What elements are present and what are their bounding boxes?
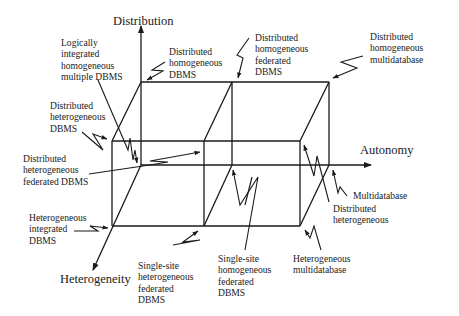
distribution-axis-label: Distribution xyxy=(113,14,173,28)
label-distributed-heterogeneous-dbms: Distributed heterogeneous DBMS xyxy=(50,100,105,134)
leader-single-site-heterogeneous-federated xyxy=(173,231,200,245)
heterogeneity-axis-label: Heterogeneity xyxy=(60,272,131,286)
leader-distributed-homogeneous-federated xyxy=(237,38,249,78)
heterogeneity-axis xyxy=(93,165,141,270)
label-distributed-heterogeneous: Distributed heterogeneous xyxy=(333,203,388,226)
label-heterogeneous-integrated: Heterogeneous integrated DBMS xyxy=(29,212,87,246)
leader-distributed-heterogeneous-federated xyxy=(89,152,200,174)
label-distributed-homogeneous-multidatabase: Distributed homogeneous multidatabase xyxy=(370,31,423,65)
leader-heterogeneous-multidatabase xyxy=(305,226,321,250)
label-heterogeneous-multidatabase: Heterogeneous multidatabase xyxy=(293,253,351,276)
label-distributed-heterogeneous-federated: Distributed heterogeneous federated DBMS xyxy=(23,153,88,187)
label-distributed-homogeneous-federated: Distributed homogeneous federated DBMS xyxy=(255,32,308,77)
leader-distributed-homogeneous-multidatabase xyxy=(333,56,363,78)
label-logically-integrated: Logically integrated homogeneous multipl… xyxy=(61,37,123,82)
label-single-site-heterogeneous-federated: Single-site heterogeneous federated DBMS xyxy=(138,260,193,305)
label-distributed-homogeneous-dbms: Distributed homogeneous DBMS xyxy=(169,46,222,80)
leader-single-site-homogeneous-federated xyxy=(233,170,258,250)
leader-distributed-homogeneous-dbms xyxy=(147,62,165,80)
autonomy-axis-label: Autonomy xyxy=(360,143,413,157)
label-single-site-homogeneous-federated: Single-site homogeneous federated DBMS xyxy=(218,253,271,298)
label-multidatabase: Multidatabase xyxy=(353,190,407,201)
leader-distributed-heterogeneous-dbms xyxy=(82,132,107,150)
leader-multidatabase xyxy=(333,170,347,196)
